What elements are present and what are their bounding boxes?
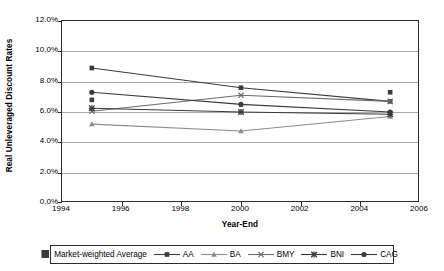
legend-label: AA <box>183 250 194 259</box>
y-tick-label: 6.0% <box>12 107 58 115</box>
series-ba <box>89 114 393 133</box>
x-tick-label: 2006 <box>399 205 439 213</box>
x-tick-label: 2002 <box>280 205 320 213</box>
data-point-circle <box>89 90 94 95</box>
data-point-square <box>90 66 95 71</box>
data-point-circle <box>362 252 367 257</box>
data-point-square <box>165 252 170 257</box>
data-point-square <box>239 85 244 90</box>
data-point-star <box>238 109 244 115</box>
legend-item-bni[interactable]: BNI <box>301 249 351 260</box>
data-point-circle <box>238 102 243 107</box>
series-layer <box>62 21 420 203</box>
y-axis-tick-labels: 0.0%2.0%4.0%6.0%8.0%10.0%12.0% <box>8 0 58 271</box>
legend-marker-star-icon <box>301 249 327 260</box>
legend-marker-triangle-icon <box>201 249 227 260</box>
data-point-square <box>90 98 95 103</box>
data-point-star <box>311 252 317 258</box>
x-axis-title: Year-End <box>61 220 419 229</box>
y-tick-label: 8.0% <box>12 77 58 85</box>
x-tick-label: 2000 <box>220 205 260 213</box>
data-point-square <box>388 90 393 95</box>
chart-container: Real Unleveraged Discount Rates 0.0%2.0%… <box>0 0 444 271</box>
x-tick-label: 1998 <box>160 205 200 213</box>
y-tick-label: 12.0% <box>12 16 58 24</box>
legend-item-cag[interactable]: CAG <box>351 249 405 260</box>
y-tick-label: 4.0% <box>12 137 58 145</box>
legend-marker-x-icon <box>248 249 274 260</box>
y-tick-label: 2.0% <box>12 168 58 176</box>
legend-marker-square-icon <box>39 249 51 260</box>
legend-label: Market-weighted Average <box>54 250 147 259</box>
plot-area <box>61 20 419 202</box>
data-point-star <box>89 105 95 111</box>
legend-item-market-weighted-average[interactable]: Market-weighted Average <box>39 249 154 260</box>
legend-label: BA <box>230 250 241 259</box>
legend-marker-square-icon <box>154 249 180 260</box>
x-tick-label: 2004 <box>339 205 379 213</box>
legend-marker-circle-icon <box>351 249 377 260</box>
y-tick-label: 10.0% <box>12 46 58 54</box>
legend-item-bmy[interactable]: BMY <box>248 249 302 260</box>
legend-item-ba[interactable]: BA <box>201 249 248 260</box>
legend-label: CAG <box>380 250 398 259</box>
legend-label: BMY <box>277 250 295 259</box>
x-tick-label: 1996 <box>101 205 141 213</box>
legend-item-aa[interactable]: AA <box>154 249 201 260</box>
chart-legend: Market-weighted AverageAABABMYBNICAG <box>50 245 394 264</box>
x-tick-label: 1994 <box>41 205 81 213</box>
data-point-circle <box>388 109 393 114</box>
series-aa <box>90 66 393 104</box>
legend-label: BNI <box>330 250 344 259</box>
